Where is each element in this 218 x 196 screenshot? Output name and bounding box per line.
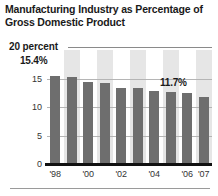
x-tick-label: '07 [198,169,210,179]
bar [166,92,176,164]
bar [100,83,110,164]
bar [83,82,93,164]
plot-area [47,50,212,164]
footer-rule [10,188,210,189]
y-tick-label: 10 [32,102,42,112]
bar [149,91,159,164]
chart-figure: Manufacturing Industry as Percentage of … [0,0,218,196]
y-tick-label: 5 [37,131,42,141]
y-axis: 151050 [0,50,42,164]
y-tick-label: 15 [32,74,42,84]
x-tick-label: '04 [148,169,160,179]
y-tick-label: 0 [37,159,42,169]
bar [50,76,60,164]
x-tick-label: '06 [181,169,193,179]
x-tick-label: '00 [82,169,94,179]
data-label-first: 15.4% [20,55,47,66]
bar [116,88,126,164]
x-axis-baseline [45,163,212,166]
bar [199,97,209,164]
bar [67,77,77,164]
x-tick-label: '02 [115,169,127,179]
bar [182,93,192,164]
top-axis-rule [68,47,212,48]
chart-title: Manufacturing Industry as Percentage of … [5,3,205,28]
x-tick-label: '98 [49,169,61,179]
data-label-last: 11.7% [160,77,187,88]
bar [133,88,143,164]
